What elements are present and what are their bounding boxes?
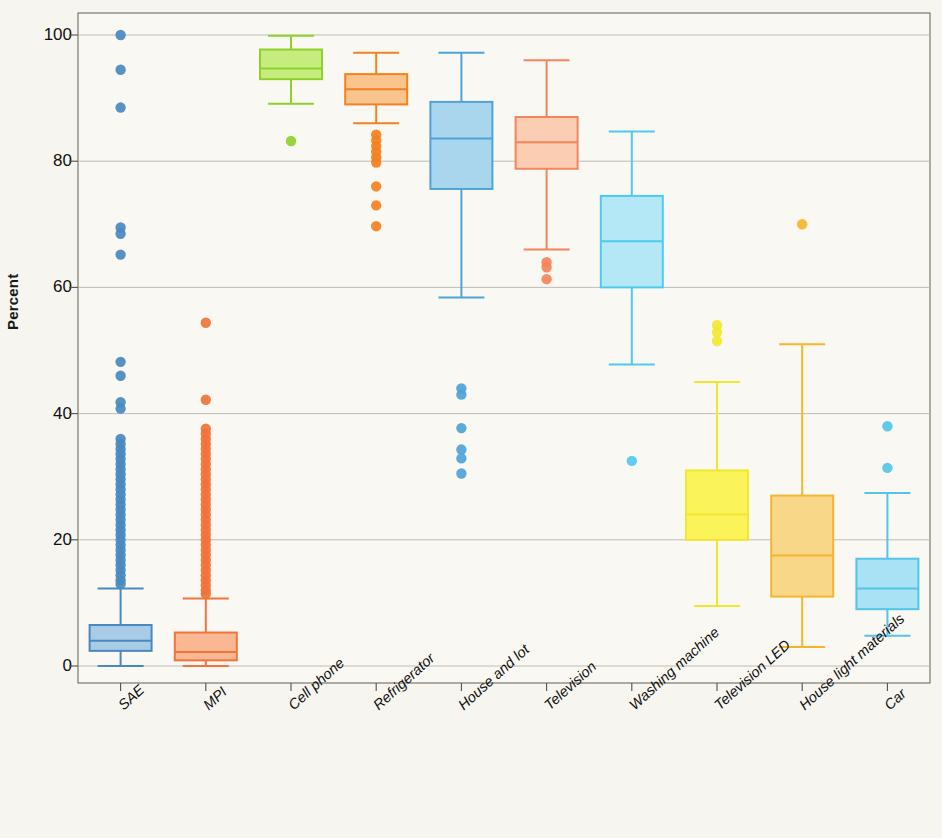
- outlier-point: [456, 389, 466, 399]
- outlier-point: [201, 318, 211, 328]
- outlier-point: [456, 468, 466, 478]
- outlier-point: [456, 423, 466, 433]
- outlier-point: [115, 30, 125, 40]
- outlier-point: [115, 371, 125, 381]
- box: [175, 633, 237, 661]
- plot-area: [0, 0, 942, 838]
- boxplot-chart: Percent 020406080100 SAEMPICell phoneRef…: [0, 0, 942, 838]
- outlier-point: [371, 221, 381, 231]
- outlier-point: [371, 157, 381, 167]
- outlier-point: [797, 219, 807, 229]
- outlier-point: [541, 262, 551, 272]
- outlier-point: [115, 357, 125, 367]
- outlier-point: [201, 589, 211, 599]
- outlier-point: [115, 102, 125, 112]
- outlier-point: [115, 229, 125, 239]
- box: [686, 470, 748, 539]
- outlier-point: [882, 421, 892, 431]
- outlier-point: [286, 136, 296, 146]
- box: [771, 496, 833, 597]
- box: [856, 559, 918, 609]
- box: [260, 50, 322, 80]
- outlier-point: [541, 274, 551, 284]
- outlier-point: [115, 579, 125, 589]
- outlier-point: [371, 181, 381, 191]
- outlier-point: [115, 65, 125, 75]
- outlier-point: [201, 395, 211, 405]
- box: [90, 625, 152, 651]
- outlier-point: [456, 453, 466, 463]
- outlier-point: [882, 463, 892, 473]
- outlier-point: [115, 403, 125, 413]
- outlier-point: [627, 456, 637, 466]
- box: [430, 102, 492, 189]
- outlier-point: [115, 249, 125, 259]
- outlier-point: [371, 200, 381, 210]
- outlier-point: [712, 336, 722, 346]
